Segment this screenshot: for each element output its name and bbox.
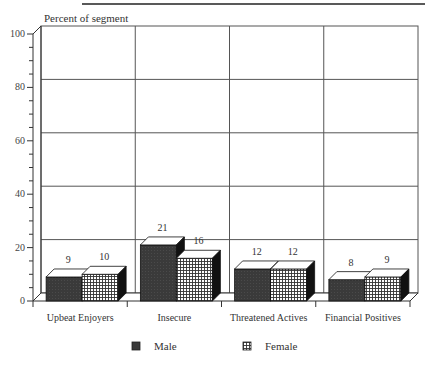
bar-value-label: 9 — [384, 254, 389, 265]
legend-label: Male — [154, 340, 177, 352]
bar-value-label: 16 — [193, 235, 203, 246]
bar-female — [176, 258, 212, 301]
bar-side-face — [212, 250, 220, 301]
bar-group-financial-positives: 89 — [329, 254, 409, 301]
legend-swatch — [243, 342, 251, 350]
y-tick-label: 20 — [15, 242, 25, 253]
y-tick-label: 40 — [15, 188, 25, 199]
legend-item-male: Male — [132, 340, 177, 352]
bar-female — [271, 269, 307, 301]
y-axis-top-edge — [33, 26, 41, 34]
bar-value-label: 8 — [348, 257, 353, 268]
y-tick-label: 80 — [15, 81, 25, 92]
legend-item-female: Female — [243, 340, 297, 352]
bar-group-threatened-actives: 1212 — [235, 246, 315, 301]
bar-male — [329, 280, 365, 301]
x-category-label: Financial Positives — [325, 312, 401, 323]
legend-label: Female — [265, 340, 297, 352]
y-tick-label: 0 — [20, 295, 25, 306]
legend-swatch — [132, 342, 140, 350]
bar-male — [140, 245, 176, 301]
bar-male — [46, 277, 82, 301]
bar-group-insecure: 2116 — [140, 222, 220, 301]
plot-area: 020406080100910Upbeat Enjoyers2116Insecu… — [10, 26, 418, 323]
bar-value-label: 12 — [288, 246, 298, 257]
y-axis-label: Percent of segment — [44, 12, 128, 24]
x-category-label: Upbeat Enjoyers — [47, 312, 114, 323]
bar-female — [82, 274, 118, 301]
bar-value-label: 12 — [252, 246, 262, 257]
x-category-label: Insecure — [157, 312, 191, 323]
bar-value-label: 9 — [66, 254, 71, 265]
bar-value-label: 10 — [99, 251, 109, 262]
y-tick-label: 60 — [15, 135, 25, 146]
bar-group-upbeat-enjoyers: 910 — [46, 251, 126, 301]
y-tick-label: 100 — [10, 28, 25, 39]
bar-male — [235, 269, 271, 301]
x-category-label: Threatened Actives — [230, 312, 308, 323]
bar-chart: Percent of segment 020406080100910Upbeat… — [0, 0, 430, 366]
bar-value-label: 21 — [157, 222, 167, 233]
legend: MaleFemale — [132, 340, 297, 352]
bar-female — [365, 277, 401, 301]
